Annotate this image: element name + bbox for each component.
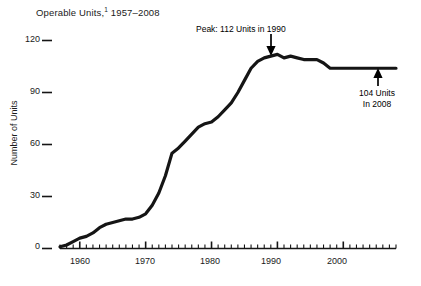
peak-arrow-icon (266, 34, 275, 56)
chart-plot-area (0, 0, 421, 286)
x-axis-ticks (60, 242, 396, 249)
chart-page: Operable Units,1 1957–2008 Number of Uni… (0, 0, 421, 286)
data-series-line (60, 54, 396, 246)
current-arrow-icon (373, 68, 382, 86)
y-axis-ticks (42, 41, 52, 249)
